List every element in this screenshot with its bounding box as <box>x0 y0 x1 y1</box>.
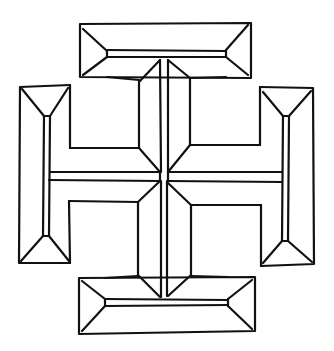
lower-left-arm <box>49 180 161 297</box>
cross-drawing <box>0 0 334 351</box>
left-terminal <box>19 85 70 263</box>
center-cross <box>160 172 168 181</box>
lower-right-arm <box>167 181 282 296</box>
top-terminal <box>80 23 251 78</box>
right-terminal <box>260 87 314 266</box>
